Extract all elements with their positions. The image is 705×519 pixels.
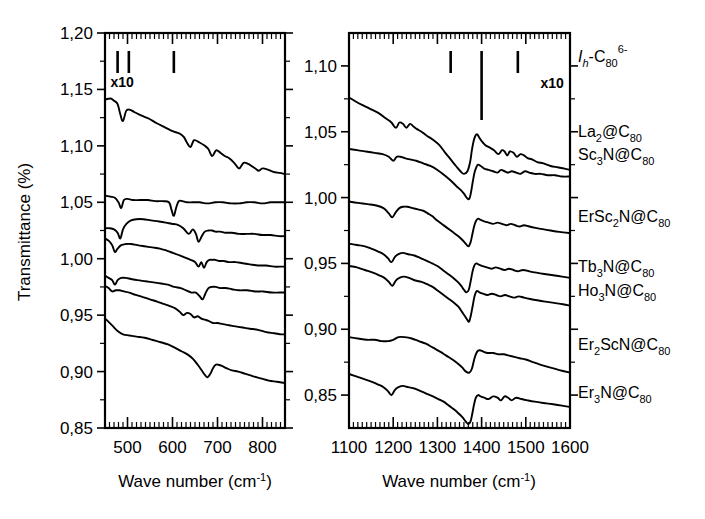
x-tick-label: 800: [248, 438, 276, 457]
x-tick-label: 1400: [463, 438, 501, 457]
x-tick-label: 1600: [551, 438, 589, 457]
y-tick-label: 1,20: [60, 24, 93, 43]
spectrum-trace: [349, 337, 570, 373]
right-multiplier-label: x10: [540, 75, 564, 91]
trace-label-ersc2n-c80: ErSc2N@C80: [578, 208, 670, 229]
right-spectra-traces: [349, 98, 570, 425]
trace-label-sup: 6-: [618, 43, 628, 55]
trace-label-er2scn-c80: Er2ScN@C80: [578, 336, 670, 357]
right-x-axis-title-close: ): [530, 472, 536, 491]
left-peak-markers: [118, 51, 174, 73]
y-tick-label: 1,00: [304, 189, 337, 208]
y-tick-label: 0,95: [304, 254, 337, 273]
right-x-ticks: [349, 33, 570, 428]
y-tick-label: 1,15: [60, 80, 93, 99]
trace-label-tb3n-c80: Tb3N@C80: [578, 258, 654, 279]
y-tick-label: 1,05: [304, 123, 337, 142]
left-x-axis-title: Wave number (cm-1): [118, 471, 272, 491]
trace-label-sub2: 80: [642, 267, 654, 279]
spectrum-trace: [349, 202, 570, 247]
trace-label-sub2: 80: [658, 345, 670, 357]
trace-label-la2-c80: La2@C80: [578, 123, 642, 144]
trace-label-er3n-c80: Er3N@C80: [578, 384, 652, 405]
right-peak-markers: [451, 51, 518, 120]
trace-label-mid: N@C: [619, 208, 658, 225]
right-x-axis-title: Wave number (cm-1): [382, 471, 536, 491]
y-tick-label: 1,10: [304, 57, 337, 76]
left-x-axis-title-sup: -1: [256, 471, 266, 483]
x-tick-label: 1200: [374, 438, 412, 457]
svg-text:Wave number (cm-1): Wave number (cm-1): [118, 471, 272, 491]
trace-labels: Ih-C806-La2@C80Sc3N@C80ErSc2N@C80Tb3N@C8…: [578, 43, 670, 405]
trace-label-ho3n-c80: Ho3N@C80: [578, 282, 656, 303]
spectrum-trace: [105, 196, 285, 216]
right-x-tick-labels: 110012001300140015001600: [331, 438, 589, 457]
y-tick-label: 0,95: [60, 306, 93, 325]
trace-label-base: Er: [578, 384, 595, 401]
trace-label-sub2: 80: [605, 57, 617, 69]
left-x-tick-labels: 500600700800: [113, 438, 276, 457]
trace-label-mid: N@C: [600, 384, 639, 401]
trace-label-mid: N@C: [605, 282, 644, 299]
spectra-figure: 0,850,900,951,001,051,101,151,20 5006007…: [0, 0, 705, 519]
left-x-axis-title-base: Wave number (cm: [118, 472, 256, 491]
spectrum-trace: [105, 238, 285, 267]
right-x-axis-title-sup: -1: [520, 471, 530, 483]
spectrum-trace: [105, 319, 285, 383]
left-panel: 0,850,900,951,001,051,101,151,20 5006007…: [60, 24, 293, 457]
spectrum-trace: [105, 276, 285, 300]
right-y-tick-labels: 0,850,900,951,001,051,10: [304, 57, 337, 405]
trace-label-mid: N@C: [603, 258, 642, 275]
right-y-ticks: [341, 66, 578, 395]
trace-label-base: La: [578, 123, 596, 140]
left-spectra-traces: [105, 98, 285, 383]
y-tick-label: 1,10: [60, 137, 93, 156]
svg-text:Wave number (cm-1): Wave number (cm-1): [382, 471, 536, 491]
left-y-tick-labels: 0,850,900,951,001,051,101,151,20: [60, 24, 93, 438]
trace-label-sub2: 80: [630, 132, 642, 144]
right-panel-frame: [349, 33, 570, 428]
trace-label-base: Tb: [578, 258, 597, 275]
y-tick-label: 0,85: [60, 419, 93, 438]
x-tick-label: 1500: [507, 438, 545, 457]
trace-label-mid: @C: [602, 123, 630, 140]
trace-label-sub2: 80: [639, 393, 651, 405]
y-tick-label: 1,05: [60, 193, 93, 212]
trace-label-base: Ho: [578, 282, 599, 299]
trace-label-mid: -C: [589, 48, 606, 65]
left-x-axis-title-close: ): [266, 472, 272, 491]
y-tick-label: 0,90: [304, 320, 337, 339]
trace-label-base: Er: [578, 336, 595, 353]
right-x-axis-title-base: Wave number (cm: [382, 472, 520, 491]
trace-label-mid: ScN@C: [600, 336, 658, 353]
spectrum-trace: [105, 219, 285, 242]
spectrum-trace: [349, 266, 570, 322]
y-tick-label: 0,85: [304, 386, 337, 405]
x-tick-label: 1100: [331, 438, 368, 457]
trace-label-sc3n-c80: Sc3N@C80: [578, 146, 654, 167]
spectrum-trace: [349, 374, 570, 424]
trace-label-ih-c80: Ih-C806-: [578, 43, 628, 69]
right-panel: 0,850,900,951,001,051,10 110012001300140…: [304, 33, 589, 457]
y-tick-label: 1,00: [60, 250, 93, 269]
left-multiplier-label: x10: [110, 74, 134, 90]
trace-label-sub2: 80: [642, 155, 654, 167]
trace-label-sub2: 80: [644, 291, 656, 303]
trace-label-mid: N@C: [603, 146, 642, 163]
y-tick-label: 0,90: [60, 363, 93, 382]
trace-label-sub2: 80: [658, 217, 670, 229]
spectrum-trace: [105, 98, 285, 174]
x-tick-label: 700: [203, 438, 231, 457]
spectrum-trace: [349, 244, 570, 293]
y-axis-title: Transmittance (%): [15, 163, 34, 301]
spectrum-trace: [349, 149, 570, 199]
x-tick-label: 1300: [418, 438, 456, 457]
trace-label-base: ErSc: [578, 208, 613, 225]
x-tick-label: 500: [113, 438, 141, 457]
x-tick-label: 600: [158, 438, 186, 457]
spectrum-trace: [349, 98, 570, 174]
trace-label-base: Sc: [578, 146, 597, 163]
figure-root: 0,850,900,951,001,051,101,151,20 5006007…: [0, 0, 705, 519]
